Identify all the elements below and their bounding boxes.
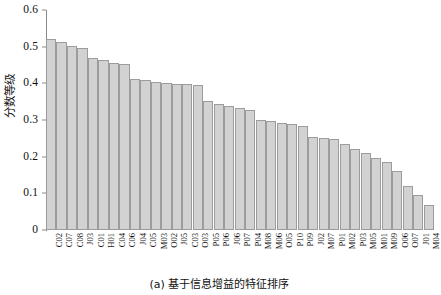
- bar: [298, 126, 308, 231]
- bar: [193, 85, 203, 230]
- bar: [214, 104, 224, 230]
- x-tick-label: P10: [296, 233, 305, 246]
- x-tick-label: O05: [285, 233, 294, 248]
- y-tick-label: 0.4: [23, 78, 38, 90]
- bar: [151, 82, 161, 230]
- x-tick-label: M04: [432, 233, 441, 249]
- x-tick-label: P04: [254, 233, 263, 246]
- bar: [130, 79, 140, 230]
- bar: [56, 42, 66, 230]
- x-tick-label: J05: [180, 233, 189, 245]
- y-tick-label: 0.3: [23, 114, 38, 126]
- bar: [172, 84, 182, 230]
- x-tick-label: C02: [55, 233, 64, 247]
- bar: [340, 144, 350, 230]
- bar: [382, 162, 392, 230]
- x-tick-label: J01: [422, 233, 431, 245]
- bar: [371, 158, 381, 230]
- x-tick-label: C06: [128, 233, 137, 247]
- x-tick-label: P09: [306, 233, 315, 246]
- bar: [140, 80, 150, 230]
- bar: [350, 149, 360, 230]
- plot-area: [46, 10, 434, 230]
- bar: [203, 101, 213, 230]
- x-tick-label: M06: [275, 233, 284, 249]
- bar: [245, 110, 255, 230]
- bar: [109, 63, 119, 230]
- x-tick-label: M05: [369, 233, 378, 249]
- x-tick-label: M03: [160, 233, 169, 249]
- bar: [77, 48, 87, 230]
- bar: [413, 195, 423, 230]
- x-tick-label: P07: [243, 233, 252, 246]
- x-tick-label: J03: [86, 233, 95, 245]
- x-tick-label: C07: [65, 233, 74, 247]
- bar: [287, 124, 297, 230]
- x-tick-label: P06: [222, 233, 231, 246]
- bar: [98, 60, 108, 230]
- bar: [161, 83, 171, 230]
- bar: [256, 120, 266, 230]
- bar: [182, 84, 192, 230]
- x-axis-labels: C02C07C08J03C01H01C04C06J04C05M03O02J05C…: [46, 231, 434, 273]
- x-tick-label: P03: [359, 233, 368, 246]
- bar: [235, 108, 245, 230]
- y-tick-label: 0.2: [23, 151, 38, 163]
- y-tick-label: 0.5: [23, 41, 38, 53]
- x-tick-label: C01: [97, 233, 106, 247]
- x-tick-label: O03: [201, 233, 210, 248]
- bar: [88, 58, 98, 230]
- x-tick-label: J02: [317, 233, 326, 245]
- bar: [424, 205, 434, 230]
- x-tick-label: H01: [107, 233, 116, 248]
- x-tick-label: P01: [338, 233, 347, 246]
- bar: [329, 139, 339, 230]
- x-tick-label: P05: [212, 233, 221, 246]
- x-tick-label: O06: [401, 233, 410, 248]
- bar: [46, 39, 56, 230]
- x-tick-label: M02: [348, 233, 357, 249]
- x-tick-label: J06: [233, 233, 242, 245]
- bar: [277, 123, 287, 230]
- y-tick-label: 0: [32, 224, 38, 236]
- bar: [224, 106, 234, 230]
- bar: [403, 186, 413, 230]
- bar: [319, 138, 329, 230]
- x-tick-label: C05: [149, 233, 158, 247]
- x-tick-label: M08: [264, 233, 273, 249]
- x-tick-label: J04: [139, 233, 148, 245]
- x-tick-label: M07: [327, 233, 336, 249]
- y-tick-label: 0.6: [23, 4, 38, 16]
- bar: [119, 64, 129, 230]
- x-tick-label: C03: [191, 233, 200, 247]
- x-tick-label: O07: [411, 233, 420, 248]
- y-axis-title: 分数等级: [1, 56, 17, 136]
- x-tick-label: M09: [390, 233, 399, 249]
- bar: [361, 153, 371, 230]
- y-tick-label: 0.1: [23, 188, 38, 200]
- bar: [266, 121, 276, 230]
- figure-caption: (a) 基于信息增益的特征排序: [0, 275, 439, 291]
- x-tick-label: O02: [170, 233, 179, 248]
- x-tick-label: M01: [380, 233, 389, 249]
- bar-series: [46, 10, 434, 230]
- bar: [308, 137, 318, 231]
- bar: [392, 171, 402, 230]
- x-tick-label: C08: [76, 233, 85, 247]
- x-tick-label: C04: [118, 233, 127, 247]
- bar: [67, 46, 77, 230]
